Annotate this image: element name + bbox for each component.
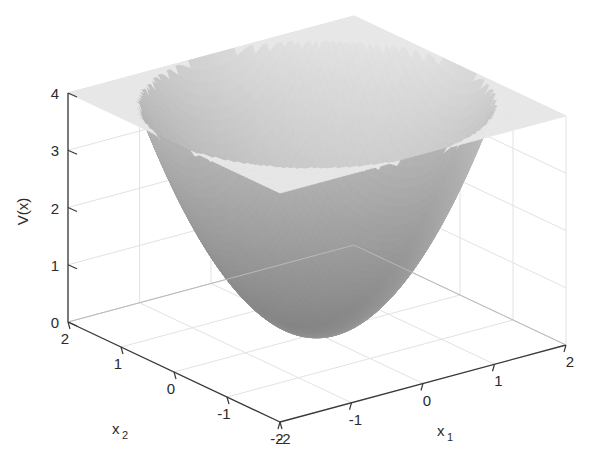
z-axis-title: V(x) — [14, 198, 31, 226]
x1-tick-label: -2 — [277, 430, 290, 447]
z-tick-label: 2 — [51, 200, 59, 217]
x1-axis-title: x1 — [437, 422, 453, 443]
svg-text:x: x — [437, 422, 445, 439]
x1-tick-label: 1 — [494, 372, 502, 389]
plot-canvas: 01234210-1-2-2-1012V(x)x2x1 — [0, 0, 603, 476]
x2-tick-label: 2 — [61, 330, 69, 347]
x1-tick-label: -1 — [349, 411, 362, 428]
svg-text:1: 1 — [447, 431, 453, 443]
z-tick-label: 3 — [51, 142, 59, 159]
z-tick-label: 4 — [51, 85, 59, 102]
z-tick-label: 1 — [51, 257, 59, 274]
x2-axis-title: x2 — [112, 420, 128, 441]
x1-tick-label: 0 — [423, 392, 431, 409]
x1-tick-label: 2 — [566, 353, 574, 370]
svg-text:x: x — [112, 420, 120, 437]
surface-mesh — [68, 16, 566, 338]
x2-tick-label: 1 — [114, 355, 122, 372]
surface-plot-figure: 01234210-1-2-2-1012V(x)x2x1 — [0, 0, 603, 476]
z-tick-label: 0 — [51, 314, 59, 331]
x2-tick-label: 0 — [167, 380, 175, 397]
svg-text:2: 2 — [122, 429, 128, 441]
x2-tick-label: -1 — [217, 405, 230, 422]
